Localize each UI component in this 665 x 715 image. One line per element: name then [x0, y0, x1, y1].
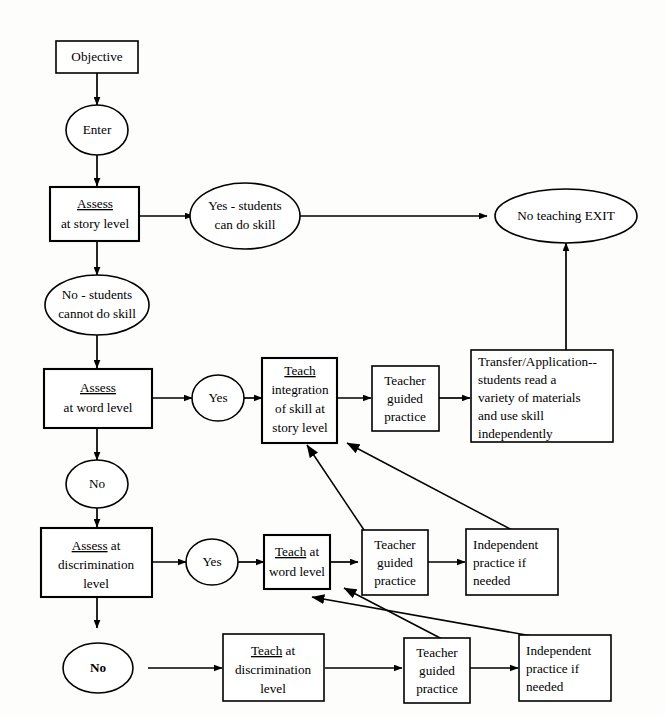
objective-label: Objective — [71, 49, 122, 64]
node-objective[interactable]: Objective — [56, 41, 138, 73]
no-students-line2: cannot do skill — [58, 306, 136, 321]
node-teacher-guided-story[interactable]: Teacher guided practice — [372, 366, 439, 431]
node-yes-word[interactable]: Yes — [192, 375, 244, 421]
teach-integration-line3: of skill at — [275, 401, 325, 416]
teach-integration-line1: Teach — [284, 363, 316, 378]
node-assess-discrimination[interactable]: Assess at discrimination level — [41, 528, 152, 597]
no-students-ellipse — [45, 275, 149, 335]
node-assess-word[interactable]: Assess at word level — [44, 369, 152, 428]
edge-teacher-guided-word-to-teach-integration — [307, 445, 364, 530]
assess-discrimination-line2: discrimination — [58, 557, 135, 572]
transfer-line3: variety of materials — [478, 390, 581, 405]
teacher-guided-word-line1: Teacher — [374, 537, 416, 552]
independent-word-line3: needed — [473, 573, 511, 588]
node-yes-discrimination[interactable]: Yes — [186, 539, 238, 585]
teacher-guided-story-line3: practice — [384, 409, 426, 424]
node-no-word[interactable]: No — [66, 460, 128, 508]
yes-students-line2: can do skill — [215, 217, 276, 232]
assess-word-box — [44, 369, 152, 428]
node-independent-discrimination[interactable]: Independent practice if needed — [519, 635, 611, 701]
assess-word-line1: Assess — [80, 380, 116, 395]
teacher-guided-story-line2: guided — [387, 391, 423, 406]
independent-word-line2: practice if — [473, 555, 527, 570]
transfer-line1: Transfer/Application-- — [478, 354, 597, 369]
teacher-guided-discrimination-line3: practice — [416, 681, 458, 696]
assess-word-line2: at word level — [64, 400, 133, 415]
teach-discrimination-line3: level — [260, 681, 286, 696]
node-teach-integration[interactable]: Teach integration of skill at story leve… — [262, 358, 337, 443]
teach-word-line1: Teach at — [275, 544, 319, 559]
assess-discrimination-line3: level — [83, 576, 109, 591]
node-no-teaching-exit[interactable]: No teaching EXIT — [495, 189, 637, 243]
transfer-line4: and use skill — [478, 408, 544, 423]
teach-integration-line2: integration — [271, 382, 329, 397]
independent-discrimination-line3: needed — [526, 679, 564, 694]
node-assess-story[interactable]: Assess at story level — [50, 187, 139, 241]
yes-students-line1: Yes - students — [208, 198, 281, 213]
node-yes-students-can[interactable]: Yes - students can do skill — [190, 183, 300, 249]
assess-story-line1: Assess — [77, 196, 113, 211]
teacher-guided-story-line1: Teacher — [384, 373, 426, 388]
no-students-line1: No - students — [62, 287, 132, 302]
teacher-guided-discrimination-line2: guided — [419, 663, 455, 678]
independent-word-line1: Independent — [473, 537, 539, 552]
node-independent-word[interactable]: Independent practice if needed — [466, 529, 558, 595]
node-teach-word[interactable]: Teach at word level — [264, 535, 330, 589]
teacher-guided-word-line3: practice — [374, 573, 416, 588]
flowchart-canvas: Objective Enter Assess at story level Ye… — [0, 0, 665, 715]
no-discrimination-label: No — [90, 660, 107, 675]
transfer-line2: students read a — [478, 372, 557, 387]
node-no-students-cannot[interactable]: No - students cannot do skill — [45, 275, 149, 335]
assess-discrimination-line1: Assess at — [72, 538, 121, 553]
enter-label: Enter — [83, 122, 112, 137]
teach-discrimination-line1: Teach at — [251, 643, 295, 658]
independent-discrimination-line1: Independent — [526, 643, 592, 658]
independent-discrimination-line2: practice if — [526, 661, 580, 676]
teach-discrimination-line2: discrimination — [235, 662, 312, 677]
no-teaching-exit-label: No teaching EXIT — [517, 208, 614, 223]
edge-independent-word-to-teach-integration — [347, 443, 512, 530]
node-no-discrimination[interactable]: No — [63, 643, 133, 693]
yes-discrimination-label: Yes — [202, 554, 221, 569]
node-enter[interactable]: Enter — [66, 105, 128, 155]
yes-students-ellipse — [190, 183, 300, 249]
node-teacher-guided-discrimination[interactable]: Teacher guided practice — [404, 638, 470, 703]
node-teacher-guided-word[interactable]: Teacher guided practice — [362, 530, 428, 595]
node-transfer-application[interactable]: Transfer/Application-- students read a v… — [471, 350, 613, 442]
teach-integration-line4: story level — [272, 420, 328, 435]
teacher-guided-discrimination-line1: Teacher — [416, 645, 458, 660]
teacher-guided-word-line2: guided — [377, 555, 413, 570]
assess-story-line2: at story level — [61, 216, 129, 231]
yes-word-label: Yes — [208, 390, 227, 405]
teach-word-line2: word level — [269, 564, 325, 579]
no-word-label: No — [89, 476, 106, 491]
node-teach-discrimination[interactable]: Teach at discrimination level — [223, 634, 324, 701]
transfer-line5: independently — [478, 426, 553, 441]
